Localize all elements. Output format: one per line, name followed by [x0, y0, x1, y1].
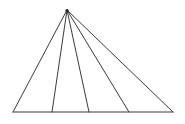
cevian-1	[52, 10, 67, 112]
cevian-2	[67, 10, 89, 112]
triangle-diagram-svg	[0, 0, 185, 124]
triangle-left-side	[13, 10, 67, 112]
apex-vertex-point	[65, 9, 68, 12]
triangle-diagram-canvas	[0, 0, 185, 124]
